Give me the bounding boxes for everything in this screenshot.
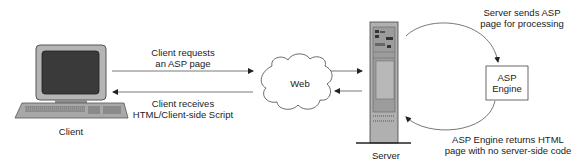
client-label: Client	[56, 126, 86, 137]
engine-to-server-arc	[406, 101, 495, 130]
to-engine-label-line2: page for processing	[470, 18, 574, 29]
to-engine-label: Server sends ASP page for processing	[470, 7, 574, 29]
from-engine-label-line1: ASP Engine returns HTML	[440, 134, 576, 145]
response-label-line2: HTML/Client-side Script	[123, 109, 243, 120]
web-label: Web	[285, 78, 315, 89]
asp-engine-label-line1: ASP	[486, 72, 528, 83]
to-engine-label-line1: Server sends ASP	[470, 7, 574, 18]
from-engine-label-line2: page with no server-side code	[440, 145, 576, 156]
asp-engine-label-line2: Engine	[486, 83, 528, 94]
server-label: Server	[368, 150, 404, 161]
request-label-line1: Client requests	[133, 47, 233, 58]
client-computer-icon	[15, 45, 128, 118]
from-engine-label: ASP Engine returns HTML page with no ser…	[440, 134, 576, 156]
server-tower-icon	[356, 22, 411, 143]
response-label-line1: Client receives	[123, 98, 243, 109]
request-label-line2: an ASP page	[133, 58, 233, 69]
response-label: Client receives HTML/Client-side Script	[123, 98, 243, 120]
request-label: Client requests an ASP page	[133, 47, 233, 69]
asp-engine-label: ASP Engine	[486, 72, 528, 94]
